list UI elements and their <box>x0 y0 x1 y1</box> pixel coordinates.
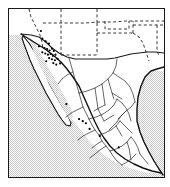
occurrence-point <box>54 54 56 56</box>
occurrence-point <box>46 48 48 50</box>
occurrence-point <box>118 146 120 148</box>
occurrence-point <box>48 43 50 45</box>
occurrence-point <box>52 62 54 64</box>
occurrence-point <box>44 52 46 54</box>
occurrence-point <box>48 57 50 59</box>
distribution-map-figure: Distribution map of Mexico and the south… <box>0 0 170 187</box>
map-canvas <box>9 9 164 177</box>
occurrence-point <box>78 118 80 120</box>
occurrence-point <box>44 40 46 42</box>
occurrence-point <box>38 45 40 47</box>
occurrence-point <box>82 120 84 122</box>
occurrence-point <box>85 122 87 124</box>
occurrence-point <box>43 47 45 49</box>
map-title: Distribution map of Mexico and the south… <box>0 0 1 1</box>
occurrence-point <box>99 135 101 137</box>
occurrence-point <box>45 60 47 62</box>
occurrence-point <box>53 50 55 52</box>
occurrence-point <box>52 55 54 57</box>
occurrence-point <box>54 59 56 61</box>
occurrence-point <box>49 49 51 51</box>
occurrence-point <box>41 37 43 39</box>
occurrence-point <box>65 103 67 105</box>
occurrence-point <box>49 53 51 55</box>
map-frame <box>8 8 165 178</box>
occurrence-point <box>40 30 42 32</box>
occurrence-point <box>55 64 57 66</box>
occurrence-point <box>56 58 58 60</box>
occurrence-point <box>59 62 61 64</box>
occurrence-point <box>51 58 53 60</box>
occurrence-point <box>89 128 91 130</box>
occurrence-point <box>47 54 49 56</box>
occurrence-point <box>41 51 43 53</box>
occurrence-point <box>51 48 53 50</box>
